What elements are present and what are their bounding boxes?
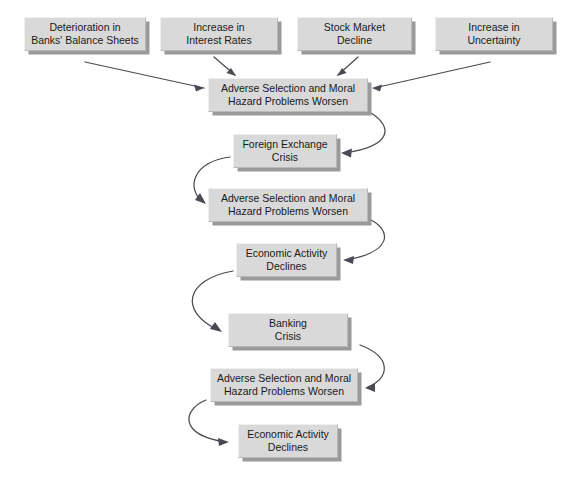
node-label: Banking Crisis — [266, 317, 310, 343]
node-label: Adverse Selection and Moral Hazard Probl… — [218, 82, 358, 108]
node-label: Stock Market Decline — [321, 21, 388, 47]
node-label: Economic Activity Declines — [243, 247, 331, 273]
arrow-edge-as2-to-economic-activity-1 — [343, 220, 385, 264]
arrow-edge-as1-to-fx-crisis — [341, 113, 385, 158]
node-adverse-selection-moral-hazard-3[interactable]: Adverse Selection and Moral Hazard Probl… — [210, 368, 358, 402]
arrow-edge-deterioration-to-as1 — [85, 62, 204, 92]
node-banking-crisis[interactable]: Banking Crisis — [228, 313, 348, 347]
node-label: Adverse Selection and Moral Hazard Probl… — [218, 192, 358, 218]
arrow-edge-banking-crisis-to-as3 — [360, 345, 384, 392]
node-increase-interest-rates[interactable]: Increase in Interest Rates — [160, 17, 278, 51]
node-label: Economic Activity Declines — [244, 428, 332, 454]
node-economic-activity-declines-2[interactable]: Economic Activity Declines — [238, 424, 338, 458]
node-label: Foreign Exchange Crisis — [239, 138, 330, 164]
arrow-edge-as3-to-economic-activity-2 — [189, 400, 229, 446]
node-label: Increase in Interest Rates — [183, 21, 254, 47]
arrow-edge-interest-rates-to-as1 — [214, 57, 236, 76]
arrow-edge-economic-activity-1-to-banking-crisis — [192, 271, 233, 332]
node-label: Deterioration in Banks' Balance Sheets — [28, 21, 142, 47]
node-increase-uncertainty[interactable]: Increase in Uncertainty — [435, 17, 553, 51]
flowchart-canvas: Deterioration in Banks' Balance SheetsIn… — [0, 0, 573, 493]
node-economic-activity-declines-1[interactable]: Economic Activity Declines — [236, 243, 337, 277]
arrow-edge-uncertainty-to-as1 — [372, 62, 490, 92]
node-label: Adverse Selection and Moral Hazard Probl… — [214, 372, 354, 398]
node-adverse-selection-moral-hazard-2[interactable]: Adverse Selection and Moral Hazard Probl… — [208, 188, 368, 222]
arrow-edge-stock-market-to-as1 — [337, 57, 358, 76]
node-foreign-exchange-crisis[interactable]: Foreign Exchange Crisis — [233, 134, 337, 168]
node-deterioration-banks-balance-sheets[interactable]: Deterioration in Banks' Balance Sheets — [24, 17, 146, 51]
node-label: Increase in Uncertainty — [464, 21, 523, 47]
node-stock-market-decline[interactable]: Stock Market Decline — [297, 17, 412, 51]
node-adverse-selection-moral-hazard-1[interactable]: Adverse Selection and Moral Hazard Probl… — [208, 78, 368, 112]
